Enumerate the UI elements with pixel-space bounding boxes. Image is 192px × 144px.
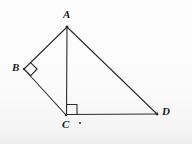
vertex-label-b: B [12, 62, 19, 73]
vertex-dot-a [66, 26, 69, 29]
segment-bc [24, 69, 66, 115]
vertex-dot-c [65, 114, 67, 116]
segment-ac [67, 27, 68, 115]
segment-cd [66, 114, 157, 115]
right-angle-marker-c [67, 105, 77, 115]
vertex-dot-d [156, 113, 159, 116]
geometry-figure: A B C D [0, 0, 192, 144]
figure-drawing [0, 0, 192, 144]
vertex-label-c: C [62, 119, 69, 130]
segment-ad [67, 27, 157, 114]
vertex-dot-b [23, 68, 25, 70]
vertex-label-a: A [63, 9, 70, 20]
right-angle-marker-b [24, 63, 37, 76]
stray-dot-mark [79, 122, 81, 124]
vertex-label-d: D [162, 106, 170, 117]
